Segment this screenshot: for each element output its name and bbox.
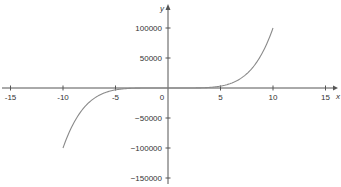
y-tick-label: −50000 (135, 114, 162, 123)
cubic-power-chart: xy-15-10-505101510000050000−50000−100000… (0, 0, 341, 187)
x-tick-label: 5 (218, 93, 223, 102)
y-tick-label: −150000 (131, 174, 163, 183)
tick-labels: xy-15-10-505101510000050000−50000−100000… (5, 4, 341, 183)
x-tick-label: 10 (269, 93, 278, 102)
axes (2, 4, 338, 184)
x-tick-label: -5 (112, 93, 120, 102)
y-tick-label: 100000 (135, 24, 162, 33)
x-tick-label: 0 (160, 93, 165, 102)
y-axis-label: y (159, 4, 165, 13)
y-axis-arrow-icon (166, 4, 171, 10)
x-tick-label: -10 (57, 93, 69, 102)
x-tick-label: -15 (5, 93, 17, 102)
y-tick-label: −100000 (131, 144, 163, 153)
x-axis-arrow-icon (333, 86, 338, 91)
x-axis-label: x (335, 92, 341, 101)
x-tick-label: 15 (321, 93, 330, 102)
y-tick-label: 50000 (140, 54, 163, 63)
